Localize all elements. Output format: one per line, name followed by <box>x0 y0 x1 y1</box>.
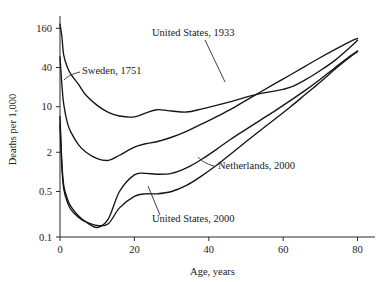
leader-netherlands-2000 <box>198 157 214 166</box>
y-tick-label-4: 0.5 <box>39 186 52 197</box>
leader-us-1933 <box>205 40 225 82</box>
series-label-2: Netherlands, 2000 <box>218 160 295 171</box>
series-annotations: Sweden, 1751United States, 1933Netherlan… <box>82 27 295 224</box>
x-tick-label-1: 20 <box>129 244 140 255</box>
y-tick-label-0: 160 <box>36 23 52 34</box>
series-label-0: Sweden, 1751 <box>82 65 142 76</box>
chart-plot-area: 160401020.50.1 020406080 Sweden, 1751Uni… <box>0 0 386 282</box>
curve-series-2 <box>60 52 358 226</box>
leader-us-2000 <box>148 186 160 215</box>
x-tick-label-4: 80 <box>352 244 363 255</box>
series-label-3: United States, 2000 <box>152 213 235 224</box>
x-axis-ticks: 020406080 <box>57 237 362 255</box>
series-label-1: United States, 1933 <box>152 27 235 38</box>
curve-series-1 <box>60 38 358 160</box>
axis-lines <box>60 16 375 237</box>
x-tick-label-3: 60 <box>278 244 289 255</box>
mortality-chart-figure: 160401020.50.1 020406080 Sweden, 1751Uni… <box>0 0 386 282</box>
x-axis-title: Age, years <box>190 266 235 277</box>
y-tick-label-3: 2 <box>47 147 52 158</box>
x-tick-label-0: 0 <box>57 244 62 255</box>
x-tick-label-2: 40 <box>204 244 215 255</box>
curve-series-3 <box>60 51 358 228</box>
y-axis-ticks: 160401020.50.1 <box>36 23 60 243</box>
y-axis-title: Deaths per 1,000 <box>7 94 18 165</box>
y-tick-label-2: 10 <box>42 101 53 112</box>
series-curves <box>60 24 358 227</box>
y-tick-label-5: 0.1 <box>39 232 52 243</box>
y-tick-label-1: 40 <box>42 62 53 73</box>
